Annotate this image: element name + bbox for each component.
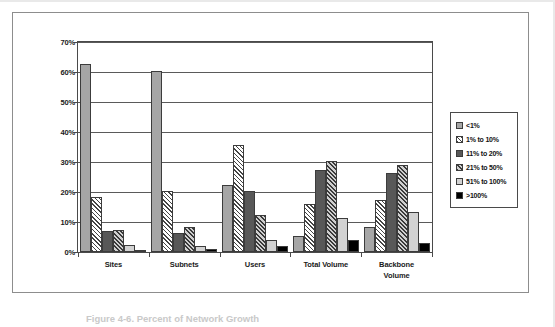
bar-chart: 0%10%20%30%40%50%60%70% SitesSubnetsUser… — [13, 13, 530, 294]
y-axis-tick-label: 40% — [41, 128, 75, 137]
legend-swatch-icon — [456, 122, 463, 129]
x-axis-label-line: Backbone — [361, 259, 432, 270]
x-axis-label-line: Total Volume — [290, 259, 361, 270]
bar — [304, 204, 315, 252]
bar — [195, 246, 206, 252]
x-axis-labels: SitesSubnetsUsersTotal VolumeBackboneVol… — [77, 259, 433, 293]
bar — [255, 215, 266, 252]
bar — [135, 250, 146, 252]
bar — [222, 185, 233, 252]
bar — [113, 230, 124, 252]
bar-group-sites — [78, 42, 149, 252]
bar — [173, 233, 184, 252]
x-axis-tickmark — [290, 253, 291, 257]
bar-group-backbone-volume — [361, 42, 432, 252]
legend-label: 1% to 10% — [466, 136, 499, 143]
bar — [293, 236, 304, 252]
legend-item: 21% to 50% — [456, 160, 513, 174]
bar — [408, 212, 419, 252]
legend-label: 21% to 50% — [466, 164, 503, 171]
x-axis-label-line: Users — [220, 259, 291, 270]
bar — [386, 173, 397, 252]
bar — [206, 249, 217, 252]
bar — [266, 240, 277, 252]
legend-label: <1% — [466, 122, 480, 129]
bar — [419, 243, 430, 252]
x-axis-category-label: Users — [220, 259, 291, 270]
x-axis-category-label: Subnets — [149, 259, 220, 270]
x-axis-category-label: Sites — [78, 259, 149, 270]
x-axis-tickmark — [78, 253, 79, 257]
bar — [348, 240, 359, 252]
legend-item: 51% to 100% — [456, 174, 513, 188]
y-axis-tick-label: 0% — [41, 248, 75, 257]
x-axis-category-label: BackboneVolume — [361, 259, 432, 281]
x-axis-tickmark — [361, 253, 362, 257]
bar — [233, 145, 244, 252]
legend-label: 11% to 20% — [466, 150, 502, 157]
bar — [315, 170, 326, 252]
bar — [337, 218, 348, 252]
legend-swatch-icon — [456, 192, 463, 199]
x-axis-label-line: Volume — [361, 270, 432, 281]
x-axis-label-line: Sites — [78, 259, 149, 270]
legend-label: 51% to 100% — [466, 178, 506, 185]
bar — [326, 161, 337, 252]
bar — [124, 245, 135, 252]
bar-group-subnets — [149, 42, 220, 252]
legend-item: >100% — [456, 188, 513, 202]
legend-swatch-icon — [456, 164, 463, 171]
bar — [184, 227, 195, 252]
legend-label: >100% — [466, 192, 487, 199]
x-axis-tickmark — [432, 253, 433, 257]
legend-swatch-icon — [456, 178, 463, 185]
figure-page-frame: 0%10%20%30%40%50%60%70% SitesSubnetsUser… — [12, 12, 529, 293]
bar — [80, 64, 91, 252]
y-axis-tick-label: 70% — [41, 38, 75, 47]
y-axis-tick-label: 60% — [41, 68, 75, 77]
x-axis-label-line: Subnets — [149, 259, 220, 270]
legend-swatch-icon — [456, 150, 463, 157]
bar — [151, 71, 162, 252]
chart-legend: <1%1% to 10%11% to 20%21% to 50%51% to 1… — [450, 112, 518, 208]
bar — [375, 200, 386, 252]
y-axis-tick-label: 20% — [41, 188, 75, 197]
y-axis-labels: 0%10%20%30%40%50%60%70% — [35, 41, 75, 253]
y-axis-tick-label: 50% — [41, 98, 75, 107]
bar — [397, 165, 408, 252]
x-axis-category-label: Total Volume — [290, 259, 361, 270]
bar — [162, 191, 173, 252]
bar — [244, 191, 255, 252]
x-axis-tickmark — [220, 253, 221, 257]
x-axis-tickmark — [149, 253, 150, 257]
bar-group-users — [220, 42, 291, 252]
bar-groups-layer — [78, 42, 432, 252]
y-axis-tick-label: 10% — [41, 218, 75, 227]
bar — [102, 231, 113, 252]
legend-item: 11% to 20% — [456, 146, 513, 160]
bar-group-total-volume — [290, 42, 361, 252]
bar — [91, 197, 102, 252]
legend-item: 1% to 10% — [456, 132, 513, 146]
bar — [277, 246, 288, 252]
y-axis-tick-label: 30% — [41, 158, 75, 167]
legend-item: <1% — [456, 118, 513, 132]
scan-edge-top — [0, 0, 555, 2]
x-axis-tickmarks — [77, 253, 433, 258]
bar — [364, 227, 375, 252]
figure-caption: Figure 4-6. Percent of Network Growth — [86, 313, 406, 327]
legend-swatch-icon — [456, 136, 463, 143]
